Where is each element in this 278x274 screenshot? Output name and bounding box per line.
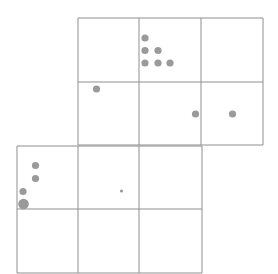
dot bbox=[229, 110, 236, 117]
dot bbox=[192, 110, 199, 117]
dot bbox=[166, 59, 173, 66]
lower-block bbox=[17, 146, 202, 273]
dot bbox=[18, 199, 29, 210]
grid-lines bbox=[17, 18, 263, 273]
dot bbox=[32, 175, 39, 182]
dot bbox=[154, 59, 161, 66]
dot bbox=[141, 59, 148, 66]
dots bbox=[18, 34, 236, 209]
dot bbox=[32, 162, 39, 169]
dot bbox=[141, 34, 148, 41]
upper-block bbox=[78, 18, 263, 145]
grid-diagram bbox=[0, 0, 278, 274]
dot bbox=[154, 47, 161, 54]
dot bbox=[19, 188, 26, 195]
dot bbox=[141, 47, 148, 54]
dot bbox=[93, 85, 100, 92]
dot bbox=[120, 189, 123, 192]
